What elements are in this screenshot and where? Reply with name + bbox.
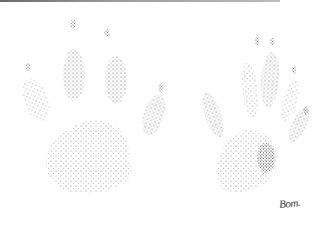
claw-mark xyxy=(270,38,274,46)
claw-mark xyxy=(105,29,110,37)
claw-mark xyxy=(71,20,76,29)
toe xyxy=(63,49,85,101)
right-paw-print xyxy=(198,37,313,192)
toe xyxy=(240,61,261,118)
palm xyxy=(46,120,132,193)
artist-signature: Bom. xyxy=(278,196,300,210)
claw-mark xyxy=(292,66,296,74)
left-paw-print xyxy=(17,20,170,194)
claw-mark xyxy=(26,63,31,71)
toe xyxy=(259,51,282,108)
toe xyxy=(105,56,127,104)
toe xyxy=(198,90,228,141)
palm-dense-area xyxy=(257,143,275,173)
toe xyxy=(17,75,55,125)
claw-mark xyxy=(255,37,259,45)
claw-mark xyxy=(159,84,164,92)
toe xyxy=(138,92,170,138)
